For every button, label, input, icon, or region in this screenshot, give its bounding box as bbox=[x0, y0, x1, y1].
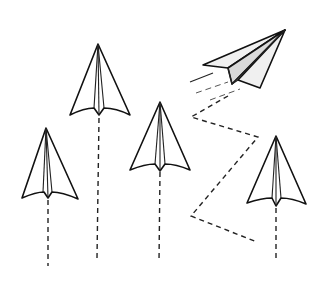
straight-trail bbox=[97, 118, 99, 258]
paper-airplane-icon bbox=[203, 30, 285, 88]
paper-airplane-icon bbox=[130, 102, 190, 262]
paper-airplane-icon bbox=[247, 136, 306, 262]
paper-airplanes-illustration bbox=[0, 0, 329, 290]
straight-trail bbox=[159, 172, 160, 262]
illustration-canvas: Paper airplanes bbox=[0, 0, 329, 290]
zigzag-trail bbox=[191, 96, 258, 242]
paper-airplane-icon bbox=[70, 44, 130, 258]
paper-airplane-icon bbox=[22, 128, 78, 266]
speed-line bbox=[190, 73, 213, 82]
speed-line bbox=[196, 82, 228, 93]
